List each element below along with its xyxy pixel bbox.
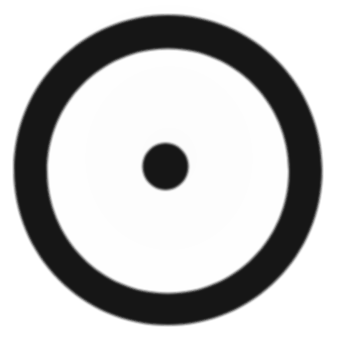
figure-layer — [0, 0, 338, 344]
dot-group — [143, 143, 189, 190]
center-dot-shape — [143, 143, 189, 190]
sun-symbol-figure — [0, 0, 338, 344]
scan-canvas: A hand-drawn thick black ring with a sma… — [0, 0, 338, 344]
